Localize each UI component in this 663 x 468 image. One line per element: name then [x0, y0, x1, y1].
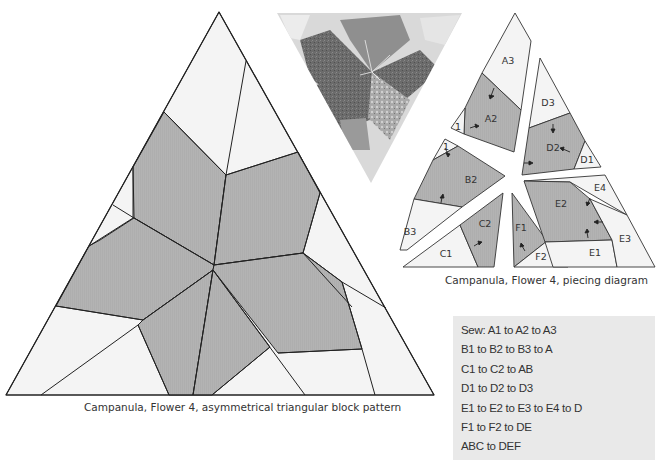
- piece-E1: [545, 240, 617, 267]
- label-B3: B3: [404, 226, 417, 237]
- sew-step-2: B1 to B2 to B3 to A: [453, 340, 655, 359]
- sew-step-4: D1 to D2 to D3: [453, 379, 655, 398]
- piece-B2: [414, 146, 505, 207]
- label-D1: D1: [580, 154, 593, 165]
- label-D2: D2: [546, 142, 559, 153]
- label-F1: F1: [515, 222, 527, 233]
- piecing-diagram-caption: Campanula, Flower 4, piecing diagram: [445, 274, 648, 286]
- label-D3: D3: [541, 97, 554, 108]
- sew-step-3: C1 to C2 to AB: [453, 360, 655, 379]
- label-A3: A3: [502, 55, 515, 66]
- label-A1: 1: [455, 121, 461, 132]
- label-E1: E1: [589, 247, 601, 258]
- label-F2: F2: [535, 251, 547, 262]
- sew-step-6: F1 to F2 to DE: [453, 418, 655, 437]
- label-B2: B2: [465, 174, 478, 185]
- label-E4: E4: [594, 182, 606, 193]
- sew-step-7: ABC to DEF: [453, 437, 655, 456]
- block-pattern-caption: Campanula, Flower 4, asymmetrical triang…: [84, 401, 401, 413]
- label-B1: 1: [443, 141, 449, 152]
- label-C1: C1: [440, 248, 453, 259]
- sew-step-1: Sew: A1 to A2 to A3: [453, 321, 655, 340]
- sewing-instructions-box: Sew: A1 to A2 to A3 B1 to B2 to B3 to A …: [453, 316, 655, 460]
- sew-step-5: E1 to E2 to E3 to E4 to D: [453, 399, 655, 418]
- label-A2: A2: [485, 113, 498, 124]
- label-E3: E3: [619, 233, 631, 244]
- label-E2: E2: [555, 198, 567, 209]
- label-C2: C2: [479, 218, 492, 229]
